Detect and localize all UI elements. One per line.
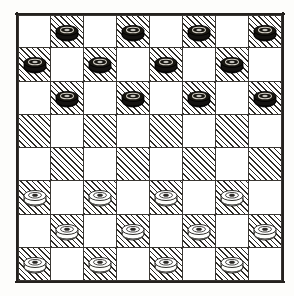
board-square-r0-c1[interactable] bbox=[51, 15, 84, 48]
black-checker-piece[interactable] bbox=[220, 54, 245, 74]
black-checker-piece[interactable] bbox=[253, 88, 278, 108]
board-square-r1-c6[interactable] bbox=[216, 48, 249, 81]
board-square-r2-c6[interactable] bbox=[216, 82, 249, 115]
white-checker-piece[interactable] bbox=[55, 221, 80, 241]
white-checker-piece[interactable] bbox=[88, 187, 113, 207]
board-square-r4-c2[interactable] bbox=[84, 148, 117, 181]
white-checker-piece[interactable] bbox=[22, 187, 47, 207]
board-square-r1-c7[interactable] bbox=[249, 48, 282, 81]
board-square-r3-c1[interactable] bbox=[51, 115, 84, 148]
board-square-r3-c6[interactable] bbox=[216, 115, 249, 148]
board-square-r7-c7[interactable] bbox=[249, 248, 282, 281]
white-checker-piece[interactable] bbox=[154, 187, 179, 207]
board-square-r0-c7[interactable] bbox=[249, 15, 282, 48]
board-square-r5-c5[interactable] bbox=[183, 181, 216, 214]
board-square-r2-c3[interactable] bbox=[117, 82, 150, 115]
board-square-r2-c7[interactable] bbox=[249, 82, 282, 115]
black-checker-piece[interactable] bbox=[55, 88, 80, 108]
board-square-r5-c2[interactable] bbox=[84, 181, 117, 214]
board-square-r5-c0[interactable] bbox=[18, 181, 51, 214]
board-square-r4-c6[interactable] bbox=[216, 148, 249, 181]
black-checker-piece[interactable] bbox=[88, 54, 113, 74]
board-square-r6-c2[interactable] bbox=[84, 215, 117, 248]
board-frame-bottom-edge bbox=[15, 281, 285, 283]
board-square-r1-c0[interactable] bbox=[18, 48, 51, 81]
board-square-r3-c2[interactable] bbox=[84, 115, 117, 148]
white-checker-piece[interactable] bbox=[88, 254, 113, 274]
board-square-r2-c1[interactable] bbox=[51, 82, 84, 115]
white-checker-piece[interactable] bbox=[187, 221, 212, 241]
board-square-r7-c0[interactable] bbox=[18, 248, 51, 281]
board-square-r7-c1[interactable] bbox=[51, 248, 84, 281]
board-square-r0-c3[interactable] bbox=[117, 15, 150, 48]
white-checker-piece[interactable] bbox=[154, 254, 179, 274]
board-square-r6-c4[interactable] bbox=[150, 215, 183, 248]
white-checker-piece[interactable] bbox=[22, 254, 47, 274]
board-square-r0-c0[interactable] bbox=[18, 15, 51, 48]
white-checker-piece[interactable] bbox=[220, 187, 245, 207]
board-square-r4-c7[interactable] bbox=[249, 148, 282, 181]
board-square-r7-c6[interactable] bbox=[216, 248, 249, 281]
board-square-r3-c7[interactable] bbox=[249, 115, 282, 148]
board-square-r2-c2[interactable] bbox=[84, 82, 117, 115]
board-frame-right-edge bbox=[282, 12, 284, 283]
white-checker-piece[interactable] bbox=[253, 221, 278, 241]
black-checker-piece[interactable] bbox=[187, 22, 212, 42]
black-checker-piece[interactable] bbox=[253, 22, 278, 42]
board-square-r3-c0[interactable] bbox=[18, 115, 51, 148]
board-square-r6-c6[interactable] bbox=[216, 215, 249, 248]
black-checker-piece[interactable] bbox=[121, 88, 146, 108]
board-square-r0-c4[interactable] bbox=[150, 15, 183, 48]
board-square-r5-c3[interactable] bbox=[117, 181, 150, 214]
scanned-page-background bbox=[0, 0, 294, 296]
white-checker-piece[interactable] bbox=[220, 254, 245, 274]
board-square-r7-c3[interactable] bbox=[117, 248, 150, 281]
board-square-r6-c0[interactable] bbox=[18, 215, 51, 248]
board-square-r4-c4[interactable] bbox=[150, 148, 183, 181]
board-square-r2-c4[interactable] bbox=[150, 82, 183, 115]
black-checker-piece[interactable] bbox=[187, 88, 212, 108]
board-square-r7-c2[interactable] bbox=[84, 248, 117, 281]
board-square-r3-c5[interactable] bbox=[183, 115, 216, 148]
black-checker-piece[interactable] bbox=[121, 22, 146, 42]
board-square-r6-c5[interactable] bbox=[183, 215, 216, 248]
board-square-r1-c4[interactable] bbox=[150, 48, 183, 81]
board-square-r6-c1[interactable] bbox=[51, 215, 84, 248]
board-square-r1-c1[interactable] bbox=[51, 48, 84, 81]
board-square-r7-c4[interactable] bbox=[150, 248, 183, 281]
board-square-r3-c3[interactable] bbox=[117, 115, 150, 148]
checkers-board-grid[interactable] bbox=[18, 15, 282, 281]
board-square-r0-c5[interactable] bbox=[183, 15, 216, 48]
board-square-r5-c4[interactable] bbox=[150, 181, 183, 214]
board-square-r0-c6[interactable] bbox=[216, 15, 249, 48]
white-checker-piece[interactable] bbox=[121, 221, 146, 241]
black-checker-piece[interactable] bbox=[55, 22, 80, 42]
board-square-r1-c3[interactable] bbox=[117, 48, 150, 81]
black-checker-piece[interactable] bbox=[22, 54, 47, 74]
board-square-r6-c3[interactable] bbox=[117, 215, 150, 248]
board-square-r4-c1[interactable] bbox=[51, 148, 84, 181]
board-square-r5-c7[interactable] bbox=[249, 181, 282, 214]
board-square-r1-c2[interactable] bbox=[84, 48, 117, 81]
board-square-r2-c5[interactable] bbox=[183, 82, 216, 115]
board-square-r6-c7[interactable] bbox=[249, 215, 282, 248]
board-square-r0-c2[interactable] bbox=[84, 15, 117, 48]
board-square-r4-c5[interactable] bbox=[183, 148, 216, 181]
board-square-r4-c3[interactable] bbox=[117, 148, 150, 181]
board-square-r3-c4[interactable] bbox=[150, 115, 183, 148]
board-square-r1-c5[interactable] bbox=[183, 48, 216, 81]
board-square-r2-c0[interactable] bbox=[18, 82, 51, 115]
board-square-r5-c6[interactable] bbox=[216, 181, 249, 214]
board-square-r4-c0[interactable] bbox=[18, 148, 51, 181]
board-square-r5-c1[interactable] bbox=[51, 181, 84, 214]
black-checker-piece[interactable] bbox=[154, 54, 179, 74]
board-square-r7-c5[interactable] bbox=[183, 248, 216, 281]
